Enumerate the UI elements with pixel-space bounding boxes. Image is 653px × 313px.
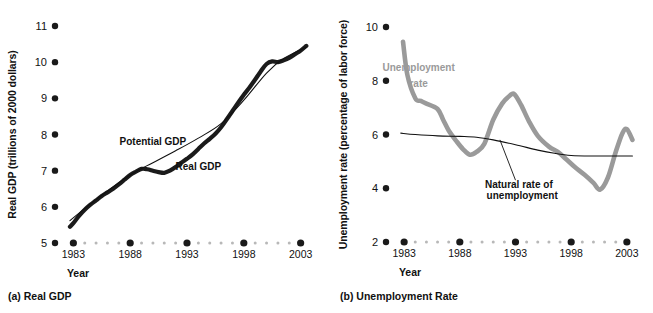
x-tick-dot-1993 — [512, 238, 519, 245]
y-tick-dot-2 — [383, 239, 389, 245]
x-tick-dot-1988 — [127, 239, 134, 246]
x-minor-dot-1987 — [447, 241, 450, 244]
y-tick-label-4: 4 — [372, 182, 378, 194]
x-minor-dot-1995 — [536, 241, 539, 244]
y-tick-label-10: 10 — [366, 21, 378, 33]
panel-real-gdp: Real GDP (trillions of 2000 dollars)5678… — [0, 0, 330, 313]
series-real-gdp — [70, 46, 306, 227]
real-gdp-chart: Real GDP (trillions of 2000 dollars)5678… — [0, 0, 330, 290]
x-axis-title: Year — [67, 267, 89, 279]
series-annotation-1: Real GDP — [176, 161, 222, 172]
x-tick-dot-1983 — [70, 239, 77, 246]
x-minor-dot-2000 — [265, 242, 268, 245]
series-natural-rate-of-unemployment — [401, 133, 633, 156]
x-tick-label-1993: 1993 — [175, 248, 199, 260]
x-minor-dot-1986 — [106, 242, 109, 245]
x-minor-dot-1987 — [117, 242, 120, 245]
x-minor-dot-1985 — [425, 241, 428, 244]
x-minor-dot-1991 — [492, 241, 495, 244]
x-tick-dot-1993 — [183, 239, 190, 246]
y-tick-dot-7 — [52, 167, 58, 173]
y-tick-dot-11 — [52, 23, 58, 29]
y-axis-title: Unemployment rate (percentage of labor f… — [337, 20, 349, 249]
x-tick-label-2003: 2003 — [615, 247, 639, 259]
x-minor-dot-2002 — [288, 242, 291, 245]
x-tick-label-1983: 1983 — [62, 248, 86, 260]
annotation-leader-line-0 — [500, 140, 516, 180]
x-tick-label-1998: 1998 — [560, 247, 584, 259]
x-tick-dot-1998 — [240, 239, 247, 246]
y-tick-label-10: 10 — [35, 56, 47, 68]
x-minor-dot-1990 — [151, 242, 154, 245]
x-minor-dot-1991 — [163, 242, 166, 245]
y-tick-label-11: 11 — [36, 20, 47, 32]
x-tick-dot-2003 — [297, 239, 304, 246]
x-minor-dot-1992 — [503, 241, 506, 244]
y-tick-dot-5 — [52, 240, 58, 246]
series-annotation-0: Potential GDP — [120, 136, 187, 147]
y-tick-dot-8 — [383, 78, 389, 84]
x-minor-dot-1984 — [414, 241, 417, 244]
y-tick-label-8: 8 — [41, 129, 47, 141]
x-tick-dot-1983 — [401, 238, 408, 245]
y-tick-label-6: 6 — [372, 129, 378, 141]
x-tick-label-1988: 1988 — [119, 248, 143, 260]
y-tick-label-5: 5 — [41, 237, 47, 249]
unemployment-rate-chart: Unemployment rate (percentage of labor f… — [330, 0, 653, 290]
x-tick-label-1983: 1983 — [392, 247, 416, 259]
x-minor-dot-2000 — [592, 241, 595, 244]
x-tick-dot-1988 — [456, 238, 463, 245]
y-axis-title: Real GDP (trillions of 2000 dollars) — [6, 50, 18, 218]
series-annotation-0: Unemployment — [382, 62, 455, 73]
y-tick-label-7: 7 — [41, 165, 47, 177]
x-minor-dot-1992 — [174, 242, 177, 245]
x-minor-dot-1986 — [436, 241, 439, 244]
x-minor-dot-1994 — [197, 242, 200, 245]
y-tick-dot-6 — [383, 131, 389, 137]
y-tick-label-9: 9 — [41, 92, 47, 104]
series-annotation-2: Natural rate of — [485, 179, 553, 190]
y-tick-dot-6 — [52, 204, 58, 210]
x-tick-label-2003: 2003 — [289, 248, 313, 260]
series-annotation-3: unemployment — [487, 190, 559, 201]
x-minor-dot-1997 — [559, 241, 562, 244]
x-minor-dot-1996 — [547, 241, 550, 244]
y-tick-dot-10 — [383, 24, 389, 30]
x-minor-dot-1989 — [140, 242, 143, 245]
y-tick-label-2: 2 — [372, 236, 378, 248]
y-tick-dot-4 — [383, 185, 389, 191]
x-minor-dot-2001 — [603, 241, 606, 244]
y-tick-dot-9 — [52, 95, 58, 101]
x-minor-dot-1999 — [581, 241, 584, 244]
x-minor-dot-1994 — [525, 241, 528, 244]
x-tick-label-1988: 1988 — [448, 247, 472, 259]
x-minor-dot-1990 — [481, 241, 484, 244]
figure-container: Real GDP (trillions of 2000 dollars)5678… — [0, 0, 653, 313]
x-minor-dot-2002 — [614, 241, 617, 244]
panel-b-caption: (b) Unemployment Rate — [340, 290, 458, 302]
panel-a-caption: (a) Real GDP — [8, 290, 72, 302]
y-tick-label-8: 8 — [372, 75, 378, 87]
x-axis-title: Year — [399, 266, 421, 278]
x-minor-dot-2001 — [276, 242, 279, 245]
x-minor-dot-1996 — [220, 242, 223, 245]
x-tick-dot-1998 — [568, 238, 575, 245]
x-tick-label-1993: 1993 — [504, 247, 528, 259]
panel-unemployment-rate: Unemployment rate (percentage of labor f… — [330, 0, 653, 313]
x-minor-dot-1984 — [83, 242, 86, 245]
x-minor-dot-1995 — [208, 242, 211, 245]
x-minor-dot-1997 — [231, 242, 234, 245]
x-minor-dot-1989 — [469, 241, 472, 244]
x-tick-dot-2003 — [623, 238, 630, 245]
y-tick-dot-8 — [52, 131, 58, 137]
series-annotation-1: rate — [409, 78, 428, 89]
y-tick-dot-10 — [52, 59, 58, 65]
x-minor-dot-1999 — [254, 242, 257, 245]
x-tick-label-1998: 1998 — [232, 248, 256, 260]
x-minor-dot-1985 — [95, 242, 98, 245]
y-tick-label-6: 6 — [41, 201, 47, 213]
